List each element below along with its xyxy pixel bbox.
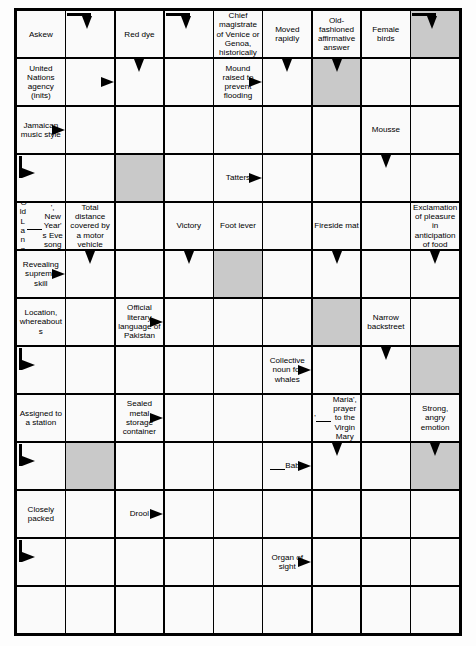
answer-cell[interactable] [411, 59, 459, 105]
answer-cell[interactable] [214, 347, 262, 393]
answer-cell[interactable] [66, 491, 114, 537]
clue-cell: Total distance covered by a motor vehicl… [66, 203, 114, 249]
answer-cell[interactable] [17, 587, 65, 633]
clue-cell: Moved rapidly [263, 11, 311, 57]
answer-cell[interactable] [165, 251, 213, 297]
answer-cell[interactable] [263, 251, 311, 297]
answer-cell[interactable] [313, 347, 361, 393]
shaded-cell[interactable] [214, 251, 262, 297]
answer-cell[interactable] [362, 155, 410, 201]
answer-cell[interactable] [17, 155, 65, 201]
answer-cell[interactable] [17, 539, 65, 585]
answer-cell[interactable] [411, 299, 459, 345]
answer-cell[interactable] [313, 539, 361, 585]
answer-cell[interactable] [214, 107, 262, 153]
clue-text: Narrow backstreet [362, 299, 410, 345]
answer-cell[interactable] [165, 443, 213, 489]
answer-cell[interactable] [214, 587, 262, 633]
answer-cell[interactable] [66, 11, 114, 57]
answer-cell[interactable] [362, 587, 410, 633]
answer-cell[interactable] [116, 59, 164, 105]
answer-cell[interactable] [116, 443, 164, 489]
answer-cell[interactable] [66, 395, 114, 441]
answer-cell[interactable] [66, 107, 114, 153]
answer-cell[interactable] [263, 155, 311, 201]
shaded-cell[interactable] [116, 155, 164, 201]
answer-cell[interactable] [165, 539, 213, 585]
answer-cell[interactable] [116, 203, 164, 249]
answer-cell[interactable] [313, 443, 361, 489]
answer-cell[interactable] [411, 251, 459, 297]
answer-cell[interactable] [411, 539, 459, 585]
answer-cell[interactable] [165, 395, 213, 441]
answer-cell[interactable] [214, 395, 262, 441]
answer-cell[interactable] [313, 587, 361, 633]
answer-cell[interactable] [263, 203, 311, 249]
clue-text: Strong, angry emotion [411, 395, 459, 441]
answer-cell[interactable] [116, 587, 164, 633]
answer-cell[interactable] [66, 59, 114, 105]
answer-cell[interactable] [263, 491, 311, 537]
answer-cell[interactable] [362, 395, 410, 441]
clue-cell: Official literary language of Pakistan [116, 299, 164, 345]
clue-text: Old-fashioned affirmative answer [313, 11, 361, 57]
answer-cell[interactable] [165, 347, 213, 393]
answer-cell[interactable] [116, 107, 164, 153]
answer-cell[interactable] [263, 299, 311, 345]
answer-cell[interactable] [313, 107, 361, 153]
answer-cell[interactable] [116, 539, 164, 585]
answer-cell[interactable] [165, 155, 213, 201]
answer-cell[interactable] [362, 251, 410, 297]
clue-text: Mound raised to prevent flooding [214, 59, 262, 105]
answer-cell[interactable] [116, 251, 164, 297]
answer-cell[interactable] [165, 107, 213, 153]
answer-cell[interactable] [66, 299, 114, 345]
shaded-cell[interactable] [313, 299, 361, 345]
answer-cell[interactable] [165, 299, 213, 345]
answer-cell[interactable] [214, 491, 262, 537]
answer-cell[interactable] [165, 59, 213, 105]
answer-cell[interactable] [66, 347, 114, 393]
arrow-down-icon [134, 59, 144, 72]
answer-cell[interactable] [17, 347, 65, 393]
answer-cell[interactable] [362, 347, 410, 393]
answer-cell[interactable] [411, 155, 459, 201]
answer-cell[interactable] [66, 587, 114, 633]
answer-cell[interactable] [263, 107, 311, 153]
answer-cell[interactable] [214, 299, 262, 345]
answer-cell[interactable] [263, 59, 311, 105]
clue-text: ' Maria', prayer to the Virgin Mary [313, 395, 361, 441]
answer-cell[interactable] [214, 443, 262, 489]
answer-cell[interactable] [313, 251, 361, 297]
shaded-cell[interactable] [411, 11, 459, 57]
answer-cell[interactable] [411, 587, 459, 633]
shaded-cell[interactable] [411, 443, 459, 489]
answer-cell[interactable] [116, 347, 164, 393]
answer-cell[interactable] [313, 155, 361, 201]
shaded-cell[interactable] [411, 347, 459, 393]
crossword-grid[interactable]: AskewRed dyeChief magistrate of Venice o… [14, 8, 462, 636]
answer-cell[interactable] [411, 491, 459, 537]
answer-cell[interactable] [165, 587, 213, 633]
answer-cell[interactable] [214, 539, 262, 585]
answer-cell[interactable] [263, 395, 311, 441]
answer-cell[interactable] [66, 155, 114, 201]
answer-cell[interactable] [17, 443, 65, 489]
clue-cell: United Nations agency (inits) [17, 59, 65, 105]
answer-cell[interactable] [66, 539, 114, 585]
answer-cell[interactable] [313, 491, 361, 537]
answer-cell[interactable] [165, 491, 213, 537]
answer-cell[interactable] [362, 539, 410, 585]
clue-cell: Chief magistrate of Venice or Genoa, his… [214, 11, 262, 57]
answer-cell[interactable] [362, 491, 410, 537]
shaded-cell[interactable] [66, 443, 114, 489]
clue-text: Foot lever [214, 203, 262, 249]
shaded-cell[interactable] [313, 59, 361, 105]
answer-cell[interactable] [165, 11, 213, 57]
answer-cell[interactable] [411, 107, 459, 153]
answer-cell[interactable] [263, 587, 311, 633]
answer-cell[interactable] [362, 203, 410, 249]
answer-cell[interactable] [66, 251, 114, 297]
answer-cell[interactable] [362, 443, 410, 489]
answer-cell[interactable] [362, 59, 410, 105]
